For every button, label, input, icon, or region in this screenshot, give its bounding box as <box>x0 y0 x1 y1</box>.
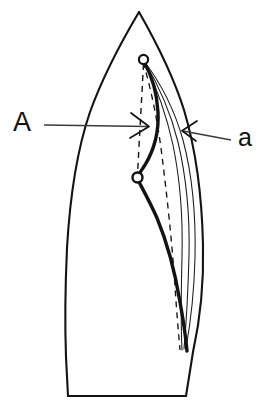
line-diagram-canvas: A a <box>0 0 269 416</box>
canvas-background <box>0 0 269 416</box>
label-A: A <box>13 107 31 137</box>
lower-node <box>133 173 143 183</box>
figure-root: A a <box>0 0 269 416</box>
label-a: a <box>238 123 252 151</box>
upper-node <box>139 55 148 64</box>
